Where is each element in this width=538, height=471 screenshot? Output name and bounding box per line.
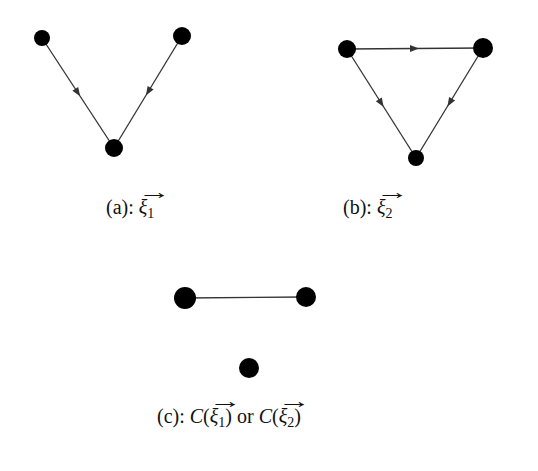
graph-node bbox=[296, 287, 316, 307]
xi-1-vector: ξ1 bbox=[210, 405, 226, 431]
xi-2-vector: ξ2 bbox=[377, 196, 393, 222]
graph-node bbox=[473, 38, 493, 58]
graph-canvas bbox=[0, 0, 538, 471]
graph-node bbox=[174, 287, 196, 309]
arrowhead-icon bbox=[410, 45, 419, 52]
arrowhead-icon bbox=[143, 86, 154, 97]
arrowhead-icon bbox=[72, 87, 83, 98]
subscript: 1 bbox=[147, 206, 154, 221]
func-c: C bbox=[190, 405, 203, 427]
subscript: 2 bbox=[287, 415, 294, 430]
graph-node bbox=[105, 139, 123, 157]
caption-c: (c): C(ξ1) or C(ξ2) bbox=[157, 405, 301, 431]
graph-node bbox=[239, 358, 259, 378]
xi-1-vector: ξ1 bbox=[139, 196, 155, 222]
subscript: 2 bbox=[385, 206, 392, 221]
caption-c-prefix: (c): bbox=[157, 405, 190, 427]
func-c: C bbox=[259, 405, 272, 427]
edge bbox=[185, 297, 306, 298]
arrowhead-icon bbox=[376, 97, 387, 108]
caption-a-prefix: (a): bbox=[106, 196, 139, 218]
xi-symbol: ξ bbox=[279, 405, 288, 427]
graph-node bbox=[34, 30, 50, 46]
xi-2-vector: ξ2 bbox=[279, 405, 295, 431]
subscript: 1 bbox=[218, 415, 225, 430]
caption-a: (a): ξ1 bbox=[106, 196, 154, 222]
graph-node bbox=[173, 27, 191, 45]
caption-b-prefix: (b): bbox=[343, 196, 377, 218]
graph-node bbox=[338, 40, 356, 58]
graph-node bbox=[408, 150, 424, 166]
caption-b: (b): ξ2 bbox=[343, 196, 392, 222]
arrowhead-icon bbox=[444, 97, 455, 108]
